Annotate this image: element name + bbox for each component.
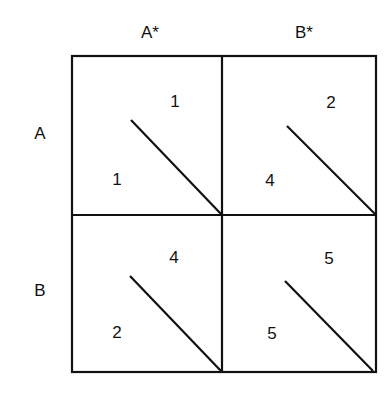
payoff-row-player: 2 [112,324,121,341]
row-header-b: B [34,282,45,299]
column-header-b-star: B* [295,24,313,41]
cell-diagonal [131,120,221,214]
column-header-a-star: A* [141,24,159,41]
payoff-col-player: 5 [324,250,333,267]
payoff-col-player: 1 [170,93,179,110]
payoff-row-player: 5 [267,325,276,342]
cell-diagonal [285,281,373,371]
payoff-grid [0,0,392,393]
payoff-row-player: 1 [112,171,121,188]
payoff-row-player: 4 [265,172,274,189]
cell-diagonal [130,276,221,371]
payoff-col-player: 2 [326,94,335,111]
cell-diagonal [287,126,375,214]
payoff-col-player: 4 [169,249,178,266]
row-header-a: A [34,125,45,142]
